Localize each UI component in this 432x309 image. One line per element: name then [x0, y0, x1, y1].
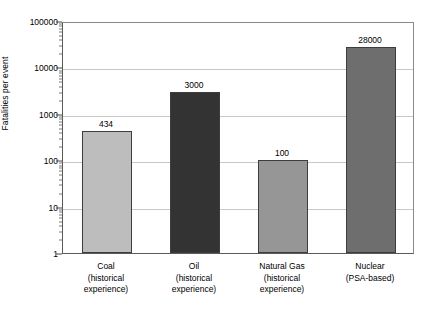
y-tick-label: 10000 [0, 63, 58, 73]
y-tick-label: 100 [0, 156, 58, 166]
bar-natural-gas [258, 160, 308, 253]
bar-value-natural-gas: 100 [242, 148, 322, 158]
bar-value-oil: 3000 [154, 80, 234, 90]
plot-area [62, 22, 414, 254]
x-label-natural-gas: Natural Gas(historicalexperience) [232, 261, 332, 296]
y-tick-label: 100000 [0, 17, 58, 27]
y-tick-label: 1 [0, 249, 58, 259]
x-label-line: experience) [144, 284, 244, 296]
x-label-nuclear: Nuclear(PSA-based) [320, 261, 420, 284]
x-label-line: Nuclear [320, 261, 420, 273]
x-label-line: (PSA-based) [320, 273, 420, 285]
bar-chart: Fatalities per event 1101001000100001000… [0, 0, 432, 309]
x-label-coal: Coal(historicalexperience) [56, 261, 156, 296]
x-label-line: Natural Gas [232, 261, 332, 273]
bar-value-coal: 434 [66, 119, 146, 129]
x-label-line: Coal [56, 261, 156, 273]
x-label-line: experience) [56, 284, 156, 296]
y-tick-label: 10 [0, 203, 58, 213]
x-label-line: Oil [144, 261, 244, 273]
bar-oil [170, 92, 220, 253]
x-label-line: (historical [144, 273, 244, 285]
bar-coal [82, 131, 132, 253]
x-label-line: (historical [232, 273, 332, 285]
bar-value-nuclear: 28000 [330, 35, 410, 45]
y-tick-label: 1000 [0, 110, 58, 120]
x-label-line: (historical [56, 273, 156, 285]
bar-nuclear [346, 47, 396, 253]
x-label-line: experience) [232, 284, 332, 296]
x-label-oil: Oil(historicalexperience) [144, 261, 244, 296]
